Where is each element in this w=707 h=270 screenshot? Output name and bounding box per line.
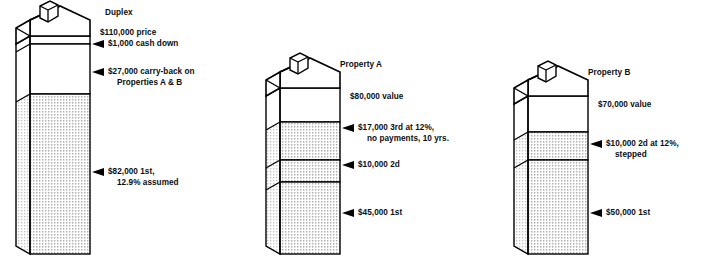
duplex-arrow-first	[92, 168, 104, 176]
building-property-b	[514, 61, 602, 254]
propb-band-second	[528, 132, 588, 160]
property-b-value-label: $70,000 value	[598, 100, 651, 111]
duplex-title: Duplex	[105, 8, 133, 19]
duplex-side-face-dotted	[16, 94, 30, 254]
duplex-band-cash-down	[30, 36, 90, 44]
duplex-layer-label-first-line2: 12.9% assumed	[117, 178, 179, 189]
duplex-roof-front	[30, 6, 90, 36]
building-property-a	[266, 53, 354, 254]
property-b-layer-label-second-line2: stepped	[615, 150, 647, 161]
financing-stack-illustration	[0, 0, 707, 270]
duplex-layer-label-carry-back: $27,000 carry-back on	[108, 67, 195, 78]
propa-band-first	[280, 182, 340, 254]
property-a-value-label: $80,000 value	[350, 92, 403, 103]
propa-arrow-second	[342, 161, 354, 169]
propb-band-first	[528, 160, 588, 254]
propa-arrow-third	[342, 124, 354, 132]
duplex-band-first	[30, 94, 90, 254]
propb-roof-front	[528, 66, 588, 96]
property-a-layer-label-third: $17,000 3rd at 12%,	[358, 123, 434, 134]
diagram-canvas: Duplex $110,000 price $1,000 cash down $…	[0, 0, 707, 270]
propa-band-second	[280, 160, 340, 182]
building-duplex	[16, 1, 104, 254]
propb-side-face-dotted	[514, 132, 528, 254]
property-b-layer-label-first: $50,000 1st	[606, 208, 650, 219]
propa-side-face-dotted	[266, 122, 280, 254]
property-b-title: Property B	[588, 68, 630, 79]
duplex-layer-label-carry-back-line2: Properties A & B	[117, 78, 182, 89]
property-a-layer-label-third-line2: no payments, 10 yrs.	[367, 134, 449, 145]
propa-band-value-white	[280, 88, 340, 122]
property-a-layer-label-second: $10,000 2d	[358, 160, 400, 171]
propa-roof-front	[280, 58, 340, 88]
propa-arrow-first	[342, 209, 354, 217]
duplex-value-label: $110,000 price	[100, 28, 156, 39]
propb-arrow-first	[590, 209, 602, 217]
propa-band-third	[280, 122, 340, 160]
duplex-arrow-carry-back	[92, 68, 104, 76]
property-b-layer-label-second: $10,000 2d at 12%,	[606, 139, 679, 150]
propb-band-value-white	[528, 96, 588, 132]
duplex-layer-label-first: $82,000 1st,	[108, 167, 155, 178]
duplex-band-carry-back	[30, 44, 90, 94]
property-a-layer-label-first: $45,000 1st	[358, 208, 402, 219]
propb-arrow-second	[590, 140, 602, 148]
duplex-layer-label-cash-down: $1,000 cash down	[108, 39, 178, 50]
property-a-title: Property A	[340, 60, 382, 71]
duplex-arrow-cash-down	[92, 40, 104, 48]
